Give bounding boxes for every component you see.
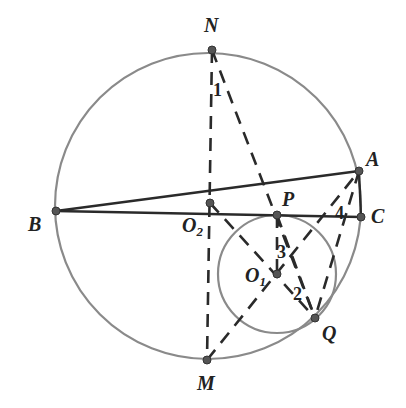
label-O2: O2 <box>182 214 203 239</box>
label-B: B <box>27 213 41 235</box>
angle-label-2: 2 <box>293 284 302 304</box>
label-M: M <box>196 372 216 394</box>
point-O1 <box>273 270 281 278</box>
label-Q: Q <box>322 322 336 344</box>
point-Q <box>311 314 319 322</box>
geometry-diagram: N M B A C P Q O2 O1 1 2 3 4 <box>0 0 406 408</box>
point-M <box>203 356 211 364</box>
label-N: N <box>203 14 220 36</box>
angle-label-4: 4 <box>335 203 344 223</box>
label-A: A <box>364 148 379 170</box>
label-O1: O1 <box>245 264 266 289</box>
label-P: P <box>281 188 295 210</box>
point-C <box>357 213 365 221</box>
segment-AC <box>359 171 361 217</box>
point-O2 <box>206 199 214 207</box>
dashed-AQ <box>315 171 359 318</box>
label-C: C <box>371 205 385 227</box>
point-P <box>273 211 281 219</box>
point-B <box>52 207 60 215</box>
point-A <box>355 167 363 175</box>
angle-label-1: 1 <box>213 80 222 100</box>
angle-label-3: 3 <box>277 242 286 262</box>
point-N <box>208 46 216 54</box>
